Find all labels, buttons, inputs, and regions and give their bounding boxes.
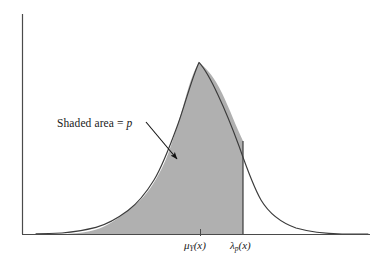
axis-label-mean: μY(x) [184,239,206,253]
shaded-area-region [60,62,243,234]
distribution-figure: Shaded area = p μY(x) λp(x) [0,0,392,265]
lambda-argument: (x) [239,239,251,251]
mu-argument: (x) [194,239,206,251]
axis-label-threshold: λp(x) [230,239,251,253]
distribution-plot [0,0,392,265]
annotation-prefix: Shaded area = [57,117,127,129]
shaded-area-annotation: Shaded area = p [57,117,132,129]
annotation-variable: p [127,117,133,129]
